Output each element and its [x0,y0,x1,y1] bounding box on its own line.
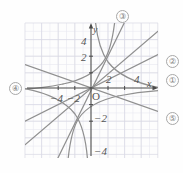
y-axis-name: y [93,25,97,35]
origin-label: O [92,91,100,102]
curve-label-four[interactable]: ④ [9,82,22,95]
x-tick-label-2: 2 [106,74,112,85]
curve-label-five[interactable]: ⑤ [166,112,179,125]
coordinate-plane [0,0,183,173]
curve-label-two[interactable]: ② [166,55,179,68]
curve-label-one[interactable]: ① [166,74,179,87]
x-tick-label-minus2: −2 [67,93,80,104]
y-tick-label-2: 2 [81,52,87,63]
y-tick-label-4: 4 [81,36,87,47]
y-tick-label-minus4: −4 [94,146,107,157]
y-tick-label-minus2: −2 [94,113,107,124]
x-tick-label-4: 4 [134,74,140,85]
graph-figure: −4 −2 2 4 4 2 −2 −4 O x y ① ② ③ ④ ⑤ [0,0,183,173]
x-axis-name: x [147,79,151,89]
curve-label-three[interactable]: ③ [116,10,129,23]
x-tick-label-minus4: −4 [50,93,63,104]
